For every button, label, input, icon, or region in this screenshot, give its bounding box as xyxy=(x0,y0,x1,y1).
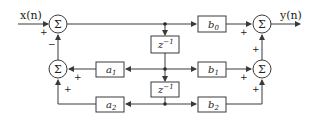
sign-b2-plus: + xyxy=(252,84,260,94)
sign-input-plus: + xyxy=(40,27,48,37)
svg-text:Σ: Σ xyxy=(54,18,62,31)
adder-feedback: Σ xyxy=(49,60,67,78)
output-label: y(n) xyxy=(279,9,302,22)
coef-b1-block: b1 xyxy=(198,62,226,77)
delay-block-2: z−1 xyxy=(151,82,179,97)
sign-a2-plus: + xyxy=(64,84,72,94)
sign-a1-plus: + xyxy=(74,72,82,82)
sign-b1-plus: + xyxy=(240,72,248,82)
sign-b0-plus: + xyxy=(240,27,248,37)
svg-text:Σ: Σ xyxy=(258,18,266,31)
coef-b0-block: b0 xyxy=(198,16,226,32)
input-label: x(n) xyxy=(20,9,42,22)
delay-block-1: z−1 xyxy=(151,36,179,53)
coef-a1-block: a1 xyxy=(96,62,124,77)
adder-output: Σ xyxy=(253,15,271,33)
svg-text:Σ: Σ xyxy=(258,63,266,76)
svg-text:Σ: Σ xyxy=(54,63,62,76)
adder-forward: Σ xyxy=(253,60,271,78)
coef-a2-block: a2 xyxy=(96,97,124,112)
coef-b2-block: b2 xyxy=(198,97,226,112)
sign-feedback-minus: − xyxy=(48,39,56,49)
signal-flow-diagram: x(n) + Σ b0 + Σ y(n) z−1 a1 + b1 + xyxy=(0,0,315,134)
adder-input: Σ xyxy=(49,15,67,33)
sign-out-plus: + xyxy=(252,44,260,54)
